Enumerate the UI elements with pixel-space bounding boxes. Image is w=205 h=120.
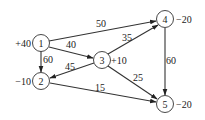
supply-label-3: +10 [111, 55, 127, 66]
node-4: 4 [157, 11, 174, 28]
svg-text:4: 4 [163, 14, 168, 25]
cost-label-3-5: 25 [133, 72, 143, 83]
cost-label-2-5: 15 [95, 82, 105, 93]
cost-label-1-3: 40 [66, 39, 76, 50]
cost-label-1-2: 60 [43, 54, 53, 65]
cost-label-4-5: 60 [166, 55, 176, 66]
network-diagram: 50 40 60 45 35 25 15 60 1 2 3 4 5 +40 −1… [0, 0, 205, 120]
node-3: 3 [94, 52, 111, 69]
node-5: 5 [157, 96, 174, 113]
node-1: 1 [33, 35, 50, 52]
cost-label-3-4: 35 [122, 32, 132, 43]
supply-label-2: −10 [15, 76, 31, 87]
supply-label-1: +40 [15, 38, 31, 49]
supply-label-4: −20 [176, 14, 192, 25]
svg-text:3: 3 [100, 55, 105, 66]
edge-3-4 [108, 25, 158, 54]
cost-label-3-2: 45 [65, 61, 75, 72]
svg-text:5: 5 [163, 99, 168, 110]
supply-label-5: −20 [176, 99, 192, 110]
svg-text:2: 2 [39, 76, 44, 87]
node-2: 2 [33, 73, 50, 90]
svg-text:1: 1 [39, 38, 44, 49]
cost-label-1-4: 50 [96, 18, 106, 29]
